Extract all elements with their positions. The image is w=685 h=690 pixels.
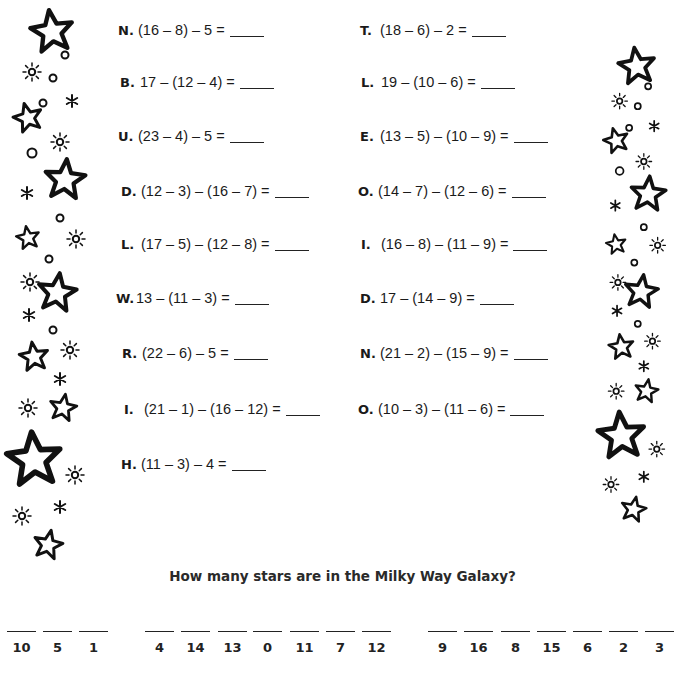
problem-expression: (12 – 3) – (16 – 7) = [141, 183, 270, 199]
answer-slot[interactable]: 11 [290, 631, 319, 655]
slot-number: 9 [428, 640, 457, 655]
problem-left-8: I. (21 – 1) – (16 – 12) = [124, 399, 320, 419]
left-star-border-icon [0, 0, 110, 570]
answer-slot[interactable]: 15 [537, 631, 566, 655]
problem-letter: D. [360, 291, 380, 306]
slot-number: 5 [43, 640, 72, 655]
problem-right-6: D. 17 – (14 – 9) = [360, 288, 514, 308]
slot-number: 14 [181, 640, 210, 655]
slot-line [362, 631, 391, 632]
problem-expression: (23 – 4) – 5 = [138, 128, 225, 144]
answer-blank[interactable] [275, 185, 309, 198]
answer-slot[interactable]: 3 [645, 631, 674, 655]
slot-line [464, 631, 493, 632]
answer-blank[interactable] [230, 130, 264, 143]
slot-line [181, 631, 210, 632]
slot-line [79, 631, 108, 632]
problem-left-6: W. 13 – (11 – 3) = [116, 288, 269, 308]
problem-right-3: E. (13 – 5) – (10 – 9) = [360, 126, 548, 146]
answer-slot[interactable]: 1 [79, 631, 108, 655]
slot-number: 12 [362, 640, 391, 655]
answer-blank[interactable] [480, 292, 514, 305]
slot-number: 7 [326, 640, 355, 655]
problem-right-4: O. (14 – 7) – (12 – 6) = [358, 181, 546, 201]
problem-letter: O. [358, 184, 378, 199]
slot-line [145, 631, 174, 632]
problem-right-1: T. (18 – 6) – 2 = [360, 20, 506, 40]
problem-letter: D. [121, 184, 141, 199]
problem-right-2: L. 19 – (10 – 6) = [361, 72, 515, 92]
problem-letter: N. [118, 23, 138, 38]
right-star-border-icon [592, 0, 685, 570]
problem-left-7: R. (22 – 6) – 5 = [122, 343, 268, 363]
problem-expression: (21 – 1) – (16 – 12) = [144, 401, 281, 417]
slot-number: 6 [573, 640, 602, 655]
answer-blank[interactable] [481, 76, 515, 89]
answer-slot[interactable]: 9 [428, 631, 457, 655]
slot-line [537, 631, 566, 632]
problem-letter: L. [121, 237, 141, 252]
answer-blank[interactable] [513, 238, 547, 251]
answer-slot[interactable]: 0 [253, 631, 282, 655]
problem-left-4: D. (12 – 3) – (16 – 7) = [121, 181, 309, 201]
answer-slot[interactable]: 2 [609, 631, 638, 655]
answer-slot[interactable]: 8 [501, 631, 530, 655]
slot-line [326, 631, 355, 632]
problem-letter: B. [120, 75, 140, 90]
answer-blank[interactable] [235, 292, 269, 305]
answer-blank[interactable] [275, 238, 309, 251]
answer-slot[interactable]: 6 [573, 631, 602, 655]
slot-number: 1 [79, 640, 108, 655]
slot-number: 8 [501, 640, 530, 655]
problem-expression: (13 – 5) – (10 – 9) = [380, 128, 509, 144]
slot-line [43, 631, 72, 632]
problem-expression: (11 – 3) – 4 = [141, 456, 227, 472]
answer-blank[interactable] [510, 403, 544, 416]
problem-expression: (21 – 2) – (15 – 9) = [380, 345, 509, 361]
slot-number: 15 [537, 640, 566, 655]
problem-expression: (10 – 3) – (11 – 6) = [378, 401, 505, 417]
problem-expression: 17 – (14 – 9) = [380, 290, 475, 306]
answer-blank[interactable] [286, 403, 320, 416]
answer-blank[interactable] [240, 76, 274, 89]
slot-line [501, 631, 530, 632]
problem-expression: 13 – (11 – 3) = [136, 290, 230, 306]
answer-slot[interactable]: 5 [43, 631, 72, 655]
slot-line [7, 631, 36, 632]
problem-letter: I. [361, 237, 381, 252]
riddle-question: How many stars are in the Milky Way Gala… [0, 568, 685, 584]
problem-left-9: H. (11 – 3) – 4 = [121, 454, 266, 474]
answer-blank[interactable] [514, 347, 548, 360]
answer-slot[interactable]: 13 [218, 631, 247, 655]
slot-number: 2 [609, 640, 638, 655]
slot-number: 0 [253, 640, 282, 655]
slot-number: 13 [218, 640, 247, 655]
answer-slot[interactable]: 4 [145, 631, 174, 655]
answer-slot[interactable]: 12 [362, 631, 391, 655]
problem-letter: H. [121, 457, 141, 472]
slot-number: 3 [645, 640, 674, 655]
answer-blank[interactable] [512, 185, 546, 198]
answer-blank[interactable] [514, 130, 548, 143]
slot-line [218, 631, 247, 632]
problem-right-7: N. (21 – 2) – (15 – 9) = [360, 343, 548, 363]
answer-slot[interactable]: 10 [7, 631, 36, 655]
answer-blank[interactable] [472, 24, 506, 37]
answer-slot[interactable]: 14 [181, 631, 210, 655]
problem-right-5: I. (16 – 8) – (11 – 9) = [361, 234, 547, 254]
slot-line [573, 631, 602, 632]
slot-line [645, 631, 674, 632]
problem-left-5: L. (17 – 5) – (12 – 8) = [121, 234, 309, 254]
problem-expression: (16 – 8) – (11 – 9) = [381, 236, 508, 252]
problem-letter: W. [116, 291, 136, 306]
answer-blank[interactable] [230, 24, 264, 37]
answer-slot[interactable]: 7 [326, 631, 355, 655]
slot-number: 16 [464, 640, 493, 655]
answer-slot[interactable]: 16 [464, 631, 493, 655]
slot-number: 4 [145, 640, 174, 655]
slot-line [290, 631, 319, 632]
answer-blank[interactable] [232, 458, 266, 471]
star-decorations [0, 0, 685, 690]
problem-left-2: B. 17 – (12 – 4) = [120, 72, 274, 92]
answer-blank[interactable] [234, 347, 268, 360]
